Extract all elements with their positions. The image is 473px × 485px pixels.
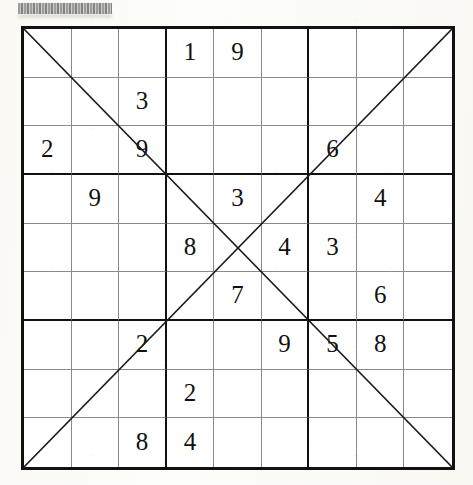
sudoku-cell-r3c8[interactable] (357, 126, 405, 175)
sudoku-cell-r8c4[interactable]: 2 (167, 370, 215, 419)
cell-value: 2 (136, 331, 149, 356)
sudoku-cell-r1c8[interactable] (357, 29, 405, 78)
sudoku-cell-r4c4[interactable] (167, 175, 215, 224)
sudoku-cell-r6c1[interactable] (24, 272, 72, 321)
sudoku-cell-r5c2[interactable] (72, 224, 120, 273)
sudoku-cell-r2c2[interactable] (72, 78, 120, 127)
cell-value: 4 (374, 185, 387, 210)
cell-value: 9 (231, 39, 244, 64)
cell-value: 1 (184, 39, 197, 64)
sudoku-cell-r7c2[interactable] (72, 321, 120, 370)
sudoku-cell-r5c4[interactable]: 8 (167, 224, 215, 273)
sudoku-cell-r6c8[interactable]: 6 (357, 272, 405, 321)
sudoku-cell-r2c5[interactable] (214, 78, 262, 127)
cell-value: 9 (89, 185, 102, 210)
sudoku-cell-r8c9[interactable] (404, 370, 452, 419)
cell-value: 4 (278, 234, 291, 259)
sudoku-cell-r8c7[interactable] (309, 370, 357, 419)
sudoku-cell-r8c6[interactable] (262, 370, 310, 419)
sudoku-cell-r4c2[interactable]: 9 (72, 175, 120, 224)
sudoku-grid-container: 193296934843762958284 (21, 26, 455, 470)
sudoku-cell-r4c9[interactable] (404, 175, 452, 224)
sudoku-cell-r3c6[interactable] (262, 126, 310, 175)
sudoku-cell-r3c2[interactable] (72, 126, 120, 175)
sudoku-cell-r8c2[interactable] (72, 370, 120, 419)
sudoku-cell-r6c6[interactable] (262, 272, 310, 321)
sudoku-cell-r5c7[interactable]: 3 (309, 224, 357, 273)
sudoku-cell-r1c3[interactable] (119, 29, 167, 78)
cell-value: 4 (184, 429, 197, 454)
sudoku-cell-r1c5[interactable]: 9 (214, 29, 262, 78)
cell-value: 5 (326, 331, 339, 356)
sudoku-cell-r3c3[interactable]: 9 (119, 126, 167, 175)
sudoku-cell-r5c6[interactable]: 4 (262, 224, 310, 273)
sudoku-cell-r4c3[interactable] (119, 175, 167, 224)
sudoku-cell-r3c7[interactable]: 6 (309, 126, 357, 175)
sudoku-cell-r8c3[interactable] (119, 370, 167, 419)
sudoku-cell-r2c1[interactable] (24, 78, 72, 127)
sudoku-cell-r7c6[interactable]: 9 (262, 321, 310, 370)
sudoku-cell-r8c1[interactable] (24, 370, 72, 419)
sudoku-cell-r4c8[interactable]: 4 (357, 175, 405, 224)
sudoku-cell-r1c2[interactable] (72, 29, 120, 78)
sudoku-cell-r9c3[interactable]: 8 (119, 418, 167, 467)
sudoku-cell-r6c5[interactable]: 7 (214, 272, 262, 321)
sudoku-cell-r9c9[interactable] (404, 418, 452, 467)
cell-value: 2 (184, 380, 197, 405)
sudoku-cell-r5c3[interactable] (119, 224, 167, 273)
sudoku-cell-r7c4[interactable] (167, 321, 215, 370)
sudoku-cell-r7c7[interactable]: 5 (309, 321, 357, 370)
sudoku-cell-r9c8[interactable] (357, 418, 405, 467)
sudoku-cell-r6c2[interactable] (72, 272, 120, 321)
sudoku-cell-r4c5[interactable]: 3 (214, 175, 262, 224)
sudoku-cell-r8c5[interactable] (214, 370, 262, 419)
sudoku-cell-r1c7[interactable] (309, 29, 357, 78)
cell-value: 9 (136, 136, 149, 161)
sudoku-grid[interactable]: 193296934843762958284 (21, 26, 455, 470)
sudoku-cell-r2c9[interactable] (404, 78, 452, 127)
sudoku-cell-r9c2[interactable] (72, 418, 120, 467)
sudoku-cell-r6c9[interactable] (404, 272, 452, 321)
sudoku-cell-r2c8[interactable] (357, 78, 405, 127)
sudoku-cell-r6c4[interactable] (167, 272, 215, 321)
cell-value: 3 (231, 185, 244, 210)
sudoku-cell-r9c1[interactable] (24, 418, 72, 467)
sudoku-cell-r4c1[interactable] (24, 175, 72, 224)
sudoku-cell-r4c7[interactable] (309, 175, 357, 224)
cell-value: 8 (184, 234, 197, 259)
sudoku-cell-r7c5[interactable] (214, 321, 262, 370)
sudoku-cell-r1c1[interactable] (24, 29, 72, 78)
sudoku-cell-r6c3[interactable] (119, 272, 167, 321)
cell-value: 9 (278, 331, 291, 356)
sudoku-cell-r7c1[interactable] (24, 321, 72, 370)
sudoku-cell-r3c5[interactable] (214, 126, 262, 175)
sudoku-cell-r2c3[interactable]: 3 (119, 78, 167, 127)
sudoku-cell-r1c4[interactable]: 1 (167, 29, 215, 78)
sudoku-cell-r1c6[interactable] (262, 29, 310, 78)
sudoku-cell-r2c6[interactable] (262, 78, 310, 127)
sudoku-cell-r4c6[interactable] (262, 175, 310, 224)
sudoku-cell-r7c9[interactable] (404, 321, 452, 370)
sudoku-cell-r2c4[interactable] (167, 78, 215, 127)
cell-value: 8 (374, 331, 387, 356)
sudoku-cell-r1c9[interactable] (404, 29, 452, 78)
sudoku-cell-r2c7[interactable] (309, 78, 357, 127)
cell-value: 2 (41, 136, 54, 161)
sudoku-cell-r9c7[interactable] (309, 418, 357, 467)
sudoku-cell-r5c1[interactable] (24, 224, 72, 273)
sudoku-cell-r6c7[interactable] (309, 272, 357, 321)
sudoku-cell-r7c3[interactable]: 2 (119, 321, 167, 370)
sudoku-cell-r8c8[interactable] (357, 370, 405, 419)
sudoku-cell-r3c9[interactable] (404, 126, 452, 175)
sudoku-cell-r9c5[interactable] (214, 418, 262, 467)
sudoku-cell-r5c9[interactable] (404, 224, 452, 273)
redaction-shadow (18, 14, 112, 18)
sudoku-cell-r9c6[interactable] (262, 418, 310, 467)
sudoku-cell-r5c5[interactable] (214, 224, 262, 273)
sudoku-cell-r5c8[interactable] (357, 224, 405, 273)
sudoku-cell-r9c4[interactable]: 4 (167, 418, 215, 467)
sudoku-cell-r3c4[interactable] (167, 126, 215, 175)
sudoku-cell-r7c8[interactable]: 8 (357, 321, 405, 370)
cell-value: 6 (326, 136, 339, 161)
sudoku-cell-r3c1[interactable]: 2 (24, 126, 72, 175)
